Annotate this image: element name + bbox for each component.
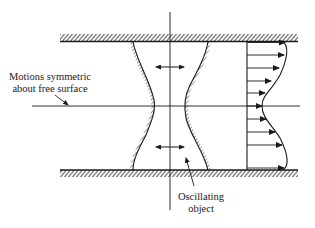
- object-label-line2: object: [188, 203, 214, 214]
- free-surface-leader: [55, 95, 68, 105]
- top-wall: [60, 34, 298, 42]
- free-surface-label-line2: about free surface: [12, 83, 88, 94]
- free-surface-label-line1: Motions symmetric: [9, 71, 91, 82]
- oscillating-object-diagram: Motions symmetric about free surface Osc…: [0, 0, 315, 228]
- free-surface-label: Motions symmetric about free surface: [9, 71, 91, 105]
- object-label-line1: Oscillating: [178, 191, 225, 202]
- object-label: Oscillating object: [178, 158, 225, 214]
- bottom-wall: [60, 170, 298, 177]
